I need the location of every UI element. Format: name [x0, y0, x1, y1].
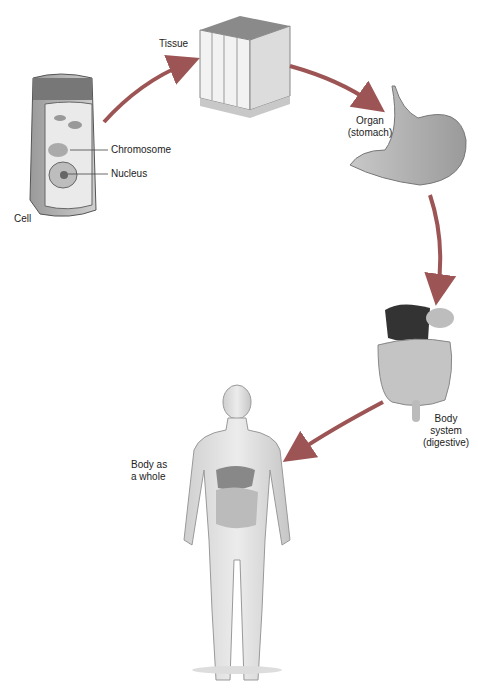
label-organ-sub: (stomach): [345, 127, 395, 139]
digestive-system-illustration: [378, 304, 454, 422]
tissue-illustration: [200, 16, 290, 118]
label-chromosome: Chromosome: [111, 144, 171, 156]
label-body-system: Body system (digestive): [418, 413, 474, 449]
cell-illustration: [30, 74, 108, 216]
label-system-title: Body: [418, 413, 474, 425]
label-nucleus: Nucleus: [111, 168, 147, 180]
label-system-sub2: (digestive): [418, 437, 474, 449]
label-system-sub: system: [418, 425, 474, 437]
label-body-sub: a whole: [131, 471, 167, 483]
label-cell: Cell: [14, 213, 31, 225]
human-body-illustration: [184, 385, 290, 680]
label-body-whole: Body as a whole: [131, 459, 167, 483]
label-organ-title: Organ: [345, 115, 395, 127]
label-body-title: Body as: [131, 459, 167, 471]
label-tissue: Tissue: [159, 38, 188, 50]
diagram-canvas: [0, 0, 478, 692]
label-organ: Organ (stomach): [345, 115, 395, 139]
